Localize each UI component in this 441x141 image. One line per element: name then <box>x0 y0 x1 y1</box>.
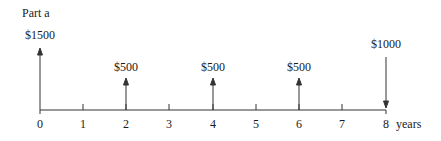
flow-label-year-4: $500 <box>201 60 225 75</box>
tick-label-1: 1 <box>80 117 86 132</box>
tick-label-7: 7 <box>339 117 345 132</box>
flow-arrow-year-4 <box>211 78 216 110</box>
tick-label-0: 0 <box>37 117 43 132</box>
flow-arrow-year-6 <box>297 78 302 110</box>
tick-label-2: 2 <box>123 117 129 132</box>
tick-label-3: 3 <box>166 117 172 132</box>
flow-arrow-year-8 <box>384 57 389 108</box>
flow-label-year-8: $1000 <box>371 37 401 52</box>
tick-label-6: 6 <box>296 117 302 132</box>
flow-label-year-2: $500 <box>114 60 138 75</box>
flow-arrow-year-2 <box>124 78 129 110</box>
flow-arrow-year-0 <box>38 48 43 110</box>
tick-label-5: 5 <box>253 117 259 132</box>
axis-unit-label: years <box>396 117 421 132</box>
flow-label-year-0: $1500 <box>25 28 55 43</box>
tick-label-8: 8 <box>383 117 389 132</box>
flow-label-year-6: $500 <box>287 60 311 75</box>
tick-label-4: 4 <box>210 117 216 132</box>
